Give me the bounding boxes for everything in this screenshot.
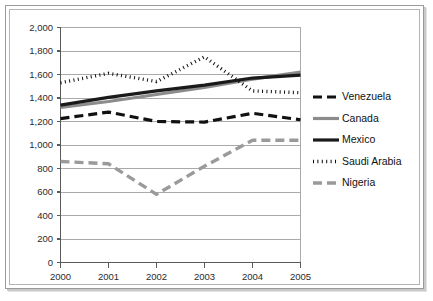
legend-label-nigeria: Nigeria — [342, 176, 375, 188]
y-axis-tick-label: 1,600 — [29, 69, 53, 80]
line-chart: 02004006008001,0001,2001,4001,6001,8002,… — [0, 0, 433, 301]
y-axis-tick-label: 200 — [37, 233, 53, 244]
legend-label-canada: Canada — [342, 112, 379, 124]
y-axis-tick-label: 600 — [37, 186, 53, 197]
y-axis-tick-label: 800 — [37, 163, 53, 174]
y-axis-tick-label: 0 — [48, 257, 53, 268]
data-series-group — [61, 57, 301, 194]
y-axis-tick-label: 1,800 — [29, 45, 53, 56]
y-axis-tick-label: 1,400 — [29, 92, 53, 103]
x-axis-tick-label: 2002 — [146, 271, 167, 282]
y-axis-tick-label: 400 — [37, 210, 53, 221]
x-axis-tick-label: 2004 — [242, 271, 263, 282]
series-line-nigeria — [61, 140, 301, 194]
legend-label-saudi-arabia: Saudi Arabia — [342, 155, 402, 167]
gridlines-group — [61, 28, 301, 240]
y-axis-labels-group: 02004006008001,0001,2001,4001,6001,8002,… — [29, 22, 53, 268]
legend-label-mexico: Mexico — [342, 133, 375, 145]
x-axis-tick-label: 2003 — [194, 271, 215, 282]
legend-label-venezuela: Venezuela — [342, 90, 391, 102]
x-axis-tick-label: 2000 — [50, 271, 71, 282]
x-axis-labels-group: 200020012002200320042005 — [50, 271, 311, 282]
x-axis-tick-label: 2001 — [98, 271, 119, 282]
y-axis-tick-label: 2,000 — [29, 22, 53, 33]
chart-plot-wrapper: 02004006008001,0001,2001,4001,6001,8002,… — [0, 0, 433, 301]
x-axis-ticks-group — [61, 263, 301, 268]
series-line-venezuela — [61, 112, 301, 122]
y-axis-tick-label: 1,200 — [29, 116, 53, 127]
legend: VenezuelaCanadaMexicoSaudi ArabiaNigeria — [313, 90, 402, 188]
x-axis-tick-label: 2005 — [290, 271, 311, 282]
y-axis-tick-label: 1,000 — [29, 139, 53, 150]
